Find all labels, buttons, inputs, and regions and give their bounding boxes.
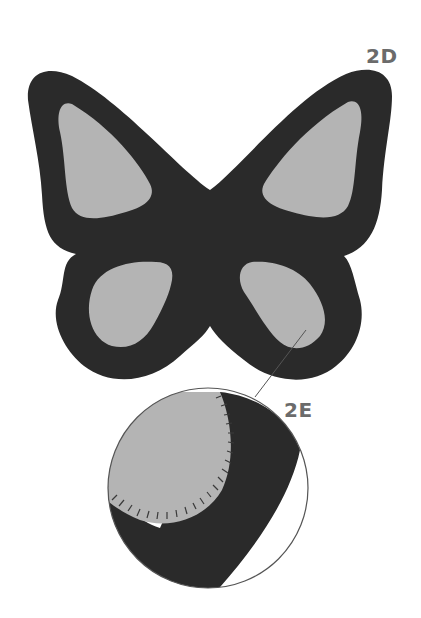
detail-magnifier-circle <box>90 388 308 596</box>
illustration-canvas: 2D 2E <box>0 0 421 618</box>
butterfly-diagram <box>0 0 421 618</box>
step-label-2d: 2D <box>366 44 398 68</box>
step-label-2e: 2E <box>284 398 313 422</box>
butterfly-felt-shape <box>28 70 392 380</box>
